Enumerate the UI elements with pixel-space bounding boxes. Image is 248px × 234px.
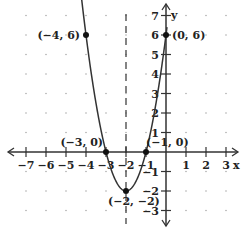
point-label: (−1, 0) xyxy=(146,136,189,149)
x-tick-label: −7 xyxy=(18,159,35,172)
y-tick-label: −1 xyxy=(142,166,159,179)
x-tick-label: 2 xyxy=(202,159,210,172)
y-tick-label: 7 xyxy=(151,10,159,23)
x-tick-label: −5 xyxy=(58,159,75,172)
y-tick-label: 4 xyxy=(151,68,159,81)
x-tick-label: 1 xyxy=(182,159,190,172)
point-marker xyxy=(163,32,169,38)
x-axis-label: x xyxy=(233,159,240,172)
point-label: (−2, −2) xyxy=(108,195,160,208)
x-tick-label: −6 xyxy=(38,159,55,172)
y-tick-label: 5 xyxy=(151,49,159,62)
y-tick-label: 6 xyxy=(151,29,159,42)
parabola-graph: −7−6−5−4−3−2−1123x7654321−1−2−3y (−4, 6)… xyxy=(0,0,248,234)
point-marker xyxy=(83,32,89,38)
point-label: (−4, 6) xyxy=(37,29,80,42)
point-label: (−3, 0) xyxy=(60,136,103,149)
y-axis-label: y xyxy=(170,9,178,22)
point-marker xyxy=(123,188,129,194)
point-marker xyxy=(143,149,149,155)
labeled-points: (−4, 6)(0, 6)(−3, 0)(−1, 0)(−2, −2) xyxy=(37,29,205,208)
x-tick-label: −4 xyxy=(78,159,95,172)
point-label: (0, 6) xyxy=(172,29,205,42)
x-tick-label: 3 xyxy=(222,159,230,172)
point-marker xyxy=(103,149,109,155)
